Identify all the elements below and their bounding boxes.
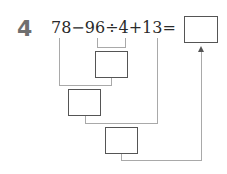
- step-box-78-minus[interactable]: [68, 89, 101, 116]
- bracket-96-div-4-bottom: [97, 47, 126, 48]
- connector-box2-down: [85, 116, 86, 124]
- answer-box[interactable]: [184, 16, 218, 43]
- bracket-96-div-4: [97, 38, 98, 47]
- connector-78-bottom: [59, 85, 111, 86]
- connector-box1-down: [111, 78, 112, 86]
- bracket-96-div-4-right: [125, 38, 126, 47]
- connector-final-bottom: [121, 160, 202, 161]
- connector-13-bottom: [85, 123, 158, 124]
- problem-number: 4: [17, 18, 32, 40]
- step-box-plus-13[interactable]: [105, 127, 138, 154]
- step-box-96-div-4[interactable]: [95, 51, 128, 78]
- expression: 78−96÷4+13=: [51, 20, 176, 36]
- connector-78: [59, 38, 60, 85]
- connector-13: [157, 38, 158, 124]
- arrow-up-icon: [198, 46, 204, 52]
- connector-final-up: [201, 50, 202, 161]
